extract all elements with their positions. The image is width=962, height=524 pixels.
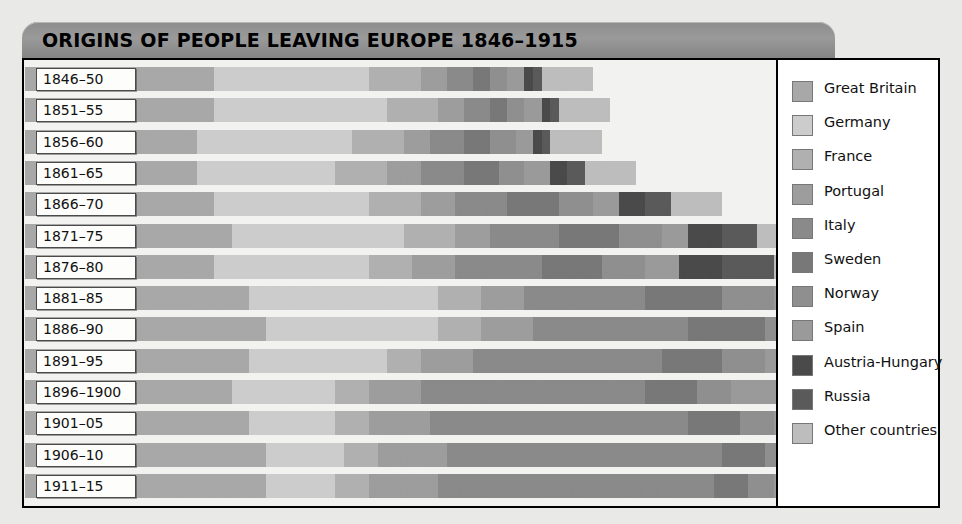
person-figure <box>688 192 697 216</box>
person-figure <box>189 380 198 404</box>
person-figure <box>309 443 318 467</box>
person-figure <box>619 224 628 248</box>
row-label-1871-75[interactable]: 1871–75 <box>36 225 136 248</box>
person-figure <box>619 317 628 341</box>
legend-item-france[interactable]: France <box>792 146 942 172</box>
row-label-1906-10[interactable]: 1906–10 <box>36 444 136 467</box>
person-figure <box>137 192 146 216</box>
person-figure <box>275 130 284 154</box>
person-figure <box>455 67 464 91</box>
legend-item-russia[interactable]: Russia <box>792 386 942 412</box>
person-figure <box>361 380 370 404</box>
person-figure <box>412 192 421 216</box>
legend-item-norway[interactable]: Norway <box>792 283 942 309</box>
person-figure <box>430 98 439 122</box>
person-figure <box>137 224 146 248</box>
person-figure <box>507 161 516 185</box>
person-figure <box>765 349 774 373</box>
row-label-1876-80[interactable]: 1876–80 <box>36 256 136 279</box>
person-figure <box>283 317 292 341</box>
row-label-1846-50[interactable]: 1846–50 <box>36 68 136 91</box>
person-figure <box>516 192 525 216</box>
person-figure <box>455 317 464 341</box>
person-figure <box>697 411 706 435</box>
person-figure <box>533 255 542 279</box>
person-figure <box>335 474 344 498</box>
person-figure <box>240 192 249 216</box>
person-figure <box>189 474 198 498</box>
person-figure <box>301 67 310 91</box>
person-figure <box>524 192 533 216</box>
person-figure <box>171 349 180 373</box>
chart-row: 1901–05 <box>24 408 776 439</box>
person-figure <box>628 161 637 185</box>
legend-item-great-britain[interactable]: Great Britain <box>792 78 942 104</box>
row-label-1856-60[interactable]: 1856–60 <box>36 131 136 154</box>
person-figure <box>610 224 619 248</box>
person-figure <box>559 286 568 310</box>
person-figure <box>197 411 206 435</box>
person-figure <box>25 255 34 279</box>
row-label-1866-70[interactable]: 1866–70 <box>36 193 136 216</box>
person-figure <box>679 317 688 341</box>
row-label-1881-85[interactable]: 1881–85 <box>36 287 136 310</box>
person-figure <box>473 67 482 91</box>
person-figure <box>533 474 542 498</box>
legend-item-italy[interactable]: Italy <box>792 215 942 241</box>
row-label-1891-95[interactable]: 1891–95 <box>36 350 136 373</box>
row-label-1911-15[interactable]: 1911–15 <box>36 475 136 498</box>
person-figure <box>653 411 662 435</box>
person-figure <box>455 161 464 185</box>
person-figure <box>197 286 206 310</box>
person-figure <box>748 474 757 498</box>
person-figure <box>378 67 387 91</box>
person-figure <box>275 224 284 248</box>
row-label-1896-1900[interactable]: 1896–1900 <box>36 381 136 404</box>
legend-item-sweden[interactable]: Sweden <box>792 249 942 275</box>
person-figure <box>585 224 594 248</box>
person-figure <box>335 98 344 122</box>
person-figure <box>257 349 266 373</box>
legend-swatch <box>792 252 813 273</box>
person-figure <box>189 224 198 248</box>
person-figure <box>318 317 327 341</box>
legend-item-germany[interactable]: Germany <box>792 112 942 138</box>
person-figure <box>206 161 215 185</box>
legend-item-spain[interactable]: Spain <box>792 317 942 343</box>
person-figure <box>576 443 585 467</box>
row-label-1851-55[interactable]: 1851–55 <box>36 99 136 122</box>
person-figure <box>283 161 292 185</box>
person-figure <box>378 224 387 248</box>
person-figure <box>671 349 680 373</box>
person-figure <box>542 411 551 435</box>
row-label-1886-90[interactable]: 1886–90 <box>36 318 136 341</box>
legend-label: Germany <box>824 114 891 130</box>
person-figure <box>765 380 774 404</box>
person-figure <box>326 411 335 435</box>
person-figure <box>249 192 258 216</box>
person-figure <box>180 192 189 216</box>
row-label-1861-65[interactable]: 1861–65 <box>36 162 136 185</box>
person-figure <box>309 130 318 154</box>
person-figure <box>257 130 266 154</box>
legend-item-portugal[interactable]: Portugal <box>792 181 942 207</box>
person-figure <box>481 130 490 154</box>
person-figure <box>567 380 576 404</box>
person-figure <box>197 317 206 341</box>
person-figure <box>516 98 525 122</box>
person-figure <box>765 411 774 435</box>
person-figure <box>714 474 723 498</box>
legend-label: France <box>824 148 872 164</box>
person-figure <box>697 192 706 216</box>
legend-item-other-countries[interactable]: Other countries <box>792 420 942 446</box>
person-figure <box>671 443 680 467</box>
person-figure <box>395 224 404 248</box>
legend-item-austria-hungary[interactable]: Austria-Hungary <box>792 352 942 378</box>
row-label-1901-05[interactable]: 1901–05 <box>36 412 136 435</box>
person-figure <box>283 224 292 248</box>
person-figure <box>679 349 688 373</box>
person-figure <box>636 474 645 498</box>
person-figure <box>283 380 292 404</box>
person-figure <box>223 98 232 122</box>
person-figure <box>206 98 215 122</box>
